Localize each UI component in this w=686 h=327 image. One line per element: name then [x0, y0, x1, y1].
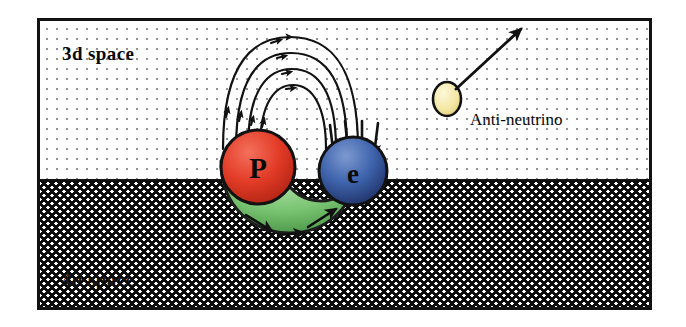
proton-label: P [249, 152, 267, 184]
electron-label: e [347, 159, 359, 189]
antineutrino-label: Anti-neutrino [470, 110, 563, 129]
electron-particle: e [319, 137, 387, 205]
diagram-frame: 3d space 4d space [37, 18, 652, 310]
antineutrino-emission-arrow [456, 29, 521, 89]
proton-particle: P [221, 130, 295, 204]
figure-canvas: 3d space 4d space [0, 0, 686, 327]
particle-artwork: P e Anti-neutrino [40, 21, 652, 310]
